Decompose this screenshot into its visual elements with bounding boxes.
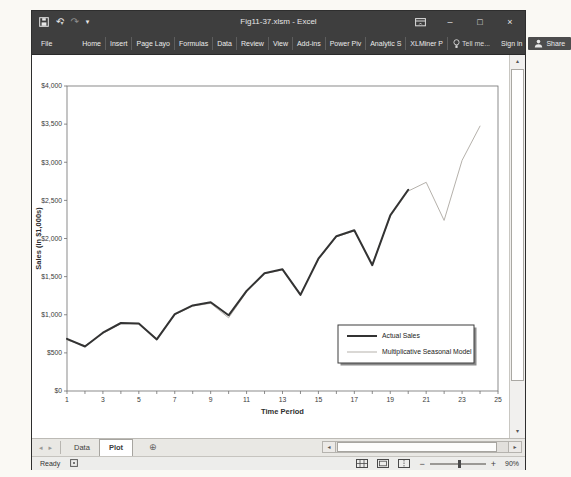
zoom-out-button[interactable]: − xyxy=(419,459,424,469)
sheet-nav-left-icon[interactable]: ◂ xyxy=(39,444,43,452)
ribbon-tab-formulas[interactable]: Formulas xyxy=(175,37,213,50)
close-button[interactable]: × xyxy=(495,11,525,33)
divider xyxy=(60,441,61,454)
share-button[interactable]: Share xyxy=(528,37,571,50)
x-tick-label: 19 xyxy=(386,396,394,403)
y-tick-label: $1,500 xyxy=(41,273,62,280)
status-ready-label: Ready xyxy=(40,457,60,470)
minimize-button[interactable]: – xyxy=(435,11,465,33)
x-tick-label: 21 xyxy=(422,396,430,403)
y-tick-label: $3,500 xyxy=(41,120,62,127)
ribbon-tab-data[interactable]: Data xyxy=(213,37,237,50)
qat-customize-icon[interactable]: ▾ xyxy=(86,11,90,33)
sign-in-button[interactable]: Sign in xyxy=(495,40,528,47)
ribbon-tab-review[interactable]: Review xyxy=(237,37,269,50)
legend-label: Actual Sales xyxy=(382,332,420,339)
x-axis-title: Time Period xyxy=(261,407,304,416)
x-tick-label: 7 xyxy=(173,396,177,403)
save-icon[interactable] xyxy=(39,13,49,31)
y-axis-title: Sales (in $1,000s) xyxy=(34,207,43,270)
y-tick-label: $3,000 xyxy=(41,159,62,166)
x-tick-label: 11 xyxy=(243,396,250,403)
x-tick-label: 1 xyxy=(65,396,69,403)
ribbon-tab-view[interactable]: View xyxy=(269,37,293,50)
zoom-slider[interactable] xyxy=(430,463,486,465)
sheet-tab-bar: ◂ ▸ DataPlot ⊕ ◂ ▸ xyxy=(32,438,525,456)
chart-legend[interactable]: Actual SalesMultiplicative Seasonal Mode… xyxy=(338,325,477,366)
normal-view-icon[interactable] xyxy=(356,459,368,469)
x-tick-label: 13 xyxy=(279,396,287,403)
y-tick-label: $1,000 xyxy=(41,311,62,318)
x-tick-label: 9 xyxy=(209,396,213,403)
person-icon xyxy=(534,39,543,48)
y-tick-label: $4,000 xyxy=(41,82,62,89)
scroll-down-icon[interactable]: ▾ xyxy=(511,425,524,438)
scroll-right-icon[interactable]: ▸ xyxy=(508,441,522,453)
excel-window: ↶ ▾ ↷ ▾ Fig11-37.xlsm - Excel – □ × File… xyxy=(31,10,526,470)
window-controls: – □ × xyxy=(405,11,525,33)
ribbon-tab-file[interactable]: File xyxy=(37,37,56,50)
legend-label: Multiplicative Seasonal Model xyxy=(382,348,472,356)
window-title: Fig11-37.xlsm - Excel xyxy=(132,11,425,33)
ribbon-tab-bar: FileHomeInsertPage LayoFormulasDataRevie… xyxy=(32,33,525,55)
ribbon-tab-insert[interactable]: Insert xyxy=(106,37,133,50)
sheet-nav-right-icon[interactable]: ▸ xyxy=(49,444,53,452)
sheet-tab-data[interactable]: Data xyxy=(65,439,99,456)
y-tick-label: $2,500 xyxy=(41,197,62,204)
add-sheet-icon[interactable]: ⊕ xyxy=(149,439,157,456)
y-tick-label: $2,000 xyxy=(41,235,62,242)
quick-access-toolbar: ↶ ▾ ↷ ▾ xyxy=(39,11,89,33)
ribbon-tab-add-ins[interactable]: Add-ins xyxy=(293,37,326,50)
sheet-tab-plot[interactable]: Plot xyxy=(99,439,133,456)
sales-chart[interactable]: $0$500$1,000$1,500$2,000$2,500$3,000$3,5… xyxy=(32,55,509,438)
horizontal-scrollbar-track[interactable] xyxy=(336,441,508,453)
multiplicative-seasonal-model-line xyxy=(67,126,480,346)
ribbon-tab-xlminer-p[interactable]: XLMiner P xyxy=(406,37,448,50)
x-tick-label: 5 xyxy=(137,396,141,403)
legend-box xyxy=(338,325,474,363)
title-bar: ↶ ▾ ↷ ▾ Fig11-37.xlsm - Excel – □ × xyxy=(32,11,525,33)
maximize-button[interactable]: □ xyxy=(465,11,495,33)
zoom-level-label[interactable]: 90% xyxy=(505,460,519,467)
scroll-up-icon[interactable]: ▴ xyxy=(511,55,524,68)
x-tick-label: 3 xyxy=(101,396,105,403)
sheet-navigation: ◂ ▸ xyxy=(32,439,60,456)
ribbon-tab-page-layo[interactable]: Page Layo xyxy=(132,37,174,50)
zoom-slider-thumb[interactable] xyxy=(458,460,461,468)
ribbon-tab-home[interactable]: Home xyxy=(78,37,106,50)
horizontal-scrollbar-thumb[interactable] xyxy=(337,442,497,452)
worksheet-area: $0$500$1,000$1,500$2,000$2,500$3,000$3,5… xyxy=(32,55,525,438)
y-tick-label: $500 xyxy=(47,349,62,356)
ribbon-display-options-icon[interactable] xyxy=(405,11,435,33)
horizontal-scrollbar[interactable]: ◂ ▸ xyxy=(322,441,522,453)
zoom-control: − + xyxy=(419,459,496,469)
status-bar: Ready xyxy=(32,456,525,470)
macro-record-icon[interactable] xyxy=(70,459,78,468)
y-tick-label: $0 xyxy=(54,387,62,394)
ribbon-tab-analytic-s[interactable]: Analytic S xyxy=(366,37,406,50)
x-tick-label: 17 xyxy=(351,396,359,403)
vertical-scrollbar[interactable]: ▴ ▾ xyxy=(509,55,525,438)
lightbulb-icon xyxy=(453,39,460,49)
x-tick-label: 25 xyxy=(494,396,502,403)
x-tick-label: 23 xyxy=(458,396,466,403)
vertical-scrollbar-thumb[interactable] xyxy=(511,69,524,381)
ribbon-tab-power-piv[interactable]: Power Piv xyxy=(326,37,367,50)
redo-icon: ↷ xyxy=(70,11,78,33)
page-layout-view-icon[interactable] xyxy=(377,459,389,469)
zoom-in-button[interactable]: + xyxy=(491,459,496,469)
tell-me-box[interactable]: Tell me... xyxy=(448,39,495,49)
actual-sales-line xyxy=(67,190,408,347)
undo-dropdown-icon[interactable]: ▾ xyxy=(60,19,63,26)
page-break-preview-icon[interactable] xyxy=(398,459,410,469)
scroll-left-icon[interactable]: ◂ xyxy=(322,441,336,453)
x-tick-label: 15 xyxy=(315,396,323,403)
